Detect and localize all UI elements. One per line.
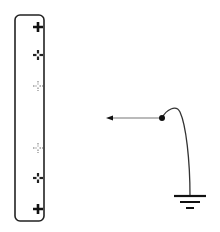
plus-charge-icon [33,143,43,153]
plus-charge-icon [33,50,43,60]
diagram-canvas [0,0,220,232]
charge-group [33,22,43,214]
junction-dot [159,115,165,121]
plus-charge-icon [33,173,43,183]
ground-wire [162,108,190,196]
plus-charge-icon [33,81,43,91]
plus-charge-icon [33,204,43,214]
arrow-head-icon [106,116,113,121]
plus-charge-icon [33,22,43,32]
ground-symbol-icon [174,196,206,208]
charged-rod [15,15,44,221]
